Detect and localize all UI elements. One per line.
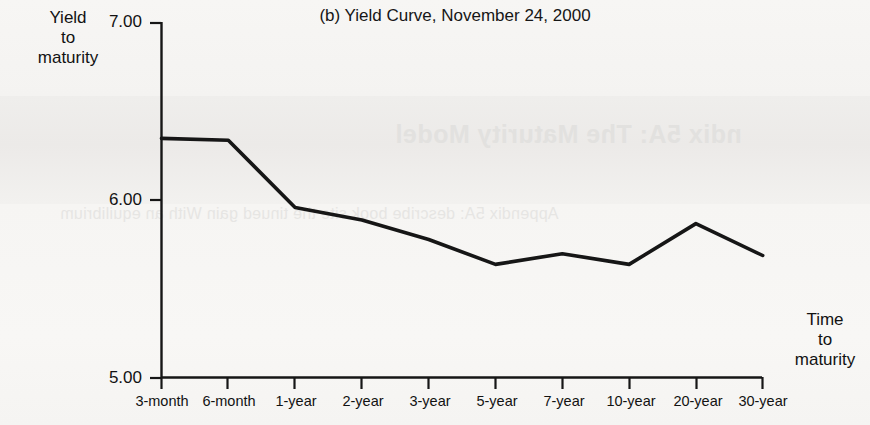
- x-axis-tick-marks: [162, 377, 763, 389]
- yield-curve-line: [162, 138, 763, 264]
- plot-area: [0, 0, 870, 425]
- yield-curve-figure: ndix 5A: The Maturity Model Appendix 5A:…: [0, 0, 870, 425]
- x-axis-tick-label-9: 30-year: [722, 393, 804, 409]
